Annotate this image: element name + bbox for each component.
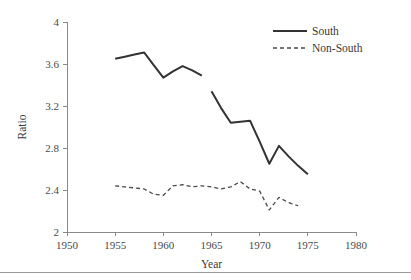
line-chart: 22.42.83.23.64 1950195519601965197019751… [0, 0, 411, 280]
y-axis-ticks: 22.42.83.23.64 [45, 16, 67, 238]
x-tick-label: 1975 [297, 239, 320, 251]
x-tick-label: 1970 [249, 239, 272, 251]
x-tick-label: 1950 [56, 239, 79, 251]
y-tick-label: 2.4 [45, 184, 59, 196]
footer-divider [0, 272, 411, 273]
x-axis-title: Year [201, 258, 222, 270]
y-tick-label: 3.6 [45, 58, 59, 70]
x-tick-label: 1980 [345, 239, 368, 251]
legend-label-south: South [312, 25, 339, 37]
series-line-non-south [115, 182, 298, 210]
figure-container: 22.42.83.23.64 1950195519601965197019751… [0, 0, 411, 280]
y-tick-label: 2.8 [45, 142, 59, 154]
x-axis: 1950195519601965197019751980 [56, 232, 368, 251]
x-tick-label: 1955 [104, 239, 127, 251]
x-axis-ticks: 1950195519601965197019751980 [56, 232, 368, 251]
series-line-south [212, 91, 308, 174]
x-tick-label: 1965 [201, 239, 224, 251]
plot-series-group [115, 52, 308, 210]
y-tick-label: 2 [54, 226, 60, 238]
y-axis-title: Ratio [16, 114, 28, 139]
legend-label-non-south: Non-South [312, 42, 363, 54]
series-line-south [115, 52, 202, 77]
y-tick-label: 3.2 [45, 100, 59, 112]
y-tick-label: 4 [54, 16, 60, 28]
x-tick-label: 1960 [152, 239, 175, 251]
y-axis: 22.42.83.23.64 [45, 16, 67, 238]
legend: SouthNon-South [273, 25, 363, 54]
